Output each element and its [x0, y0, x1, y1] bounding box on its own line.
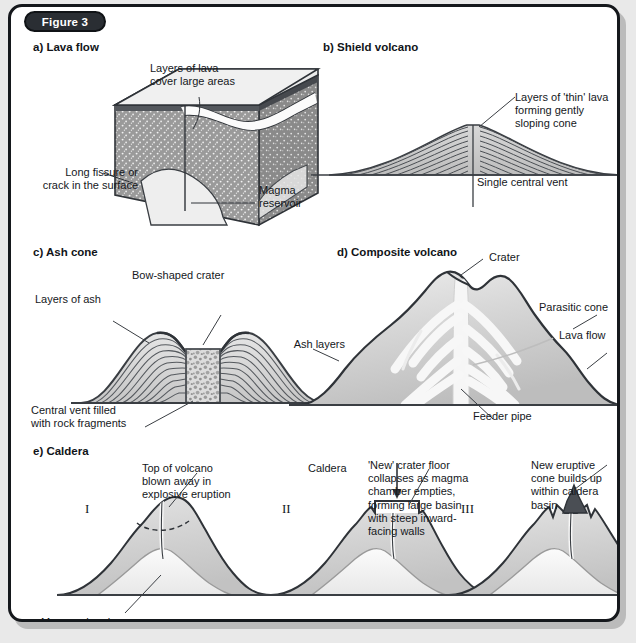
- label-new-crater-floor: 'New' crater floor collapses as magma ch…: [368, 459, 468, 538]
- label-parasitic-cone: Parasitic cone: [539, 301, 608, 314]
- label-layers-of-lava: Layers of lava cover large areas: [150, 62, 235, 88]
- label-long-fissure: Long fissure or crack in the surface: [23, 166, 138, 192]
- panel-title-d: d) Composite volcano: [337, 246, 457, 258]
- label-magma-reservoir: Magma reservoir: [259, 184, 302, 210]
- panel-title-c: c) Ash cone: [33, 246, 98, 258]
- panel-title-a: a) Lava flow: [33, 41, 99, 53]
- panel-title-e: e) Caldera: [33, 445, 89, 457]
- stage-numeral-2: II: [282, 501, 291, 517]
- panel-title-b: b) Shield volcano: [323, 41, 418, 53]
- label-central-vent-rock: Central vent filled with rock fragments: [31, 404, 126, 430]
- label-new-eruptive-cone: New eruptive cone builds up within calde…: [531, 459, 602, 512]
- label-ash-layers: Ash layers: [277, 338, 345, 351]
- stage-numeral-1: I: [85, 501, 89, 517]
- stage-numeral-3: III: [461, 501, 474, 517]
- label-bow-shaped-crater: Bow-shaped crater: [132, 269, 224, 282]
- figure-badge: Figure 3: [24, 11, 106, 32]
- label-magma-chamber: Magma chamber: [41, 616, 124, 622]
- label-single-central-vent: Single central vent: [477, 176, 568, 189]
- label-lava-flow: Lava flow: [559, 329, 605, 342]
- label-thin-lava: Layers of 'thin' lava forming gently slo…: [515, 91, 608, 131]
- label-layers-of-ash: Layers of ash: [21, 293, 101, 306]
- label-crater: Crater: [489, 251, 520, 264]
- label-feeder-pipe: Feeder pipe: [473, 410, 532, 423]
- figure-frame: Figure 3: [8, 4, 620, 622]
- label-top-blown-away: Top of volcano blown away in explosive e…: [142, 462, 231, 502]
- label-caldera: Caldera: [308, 462, 347, 475]
